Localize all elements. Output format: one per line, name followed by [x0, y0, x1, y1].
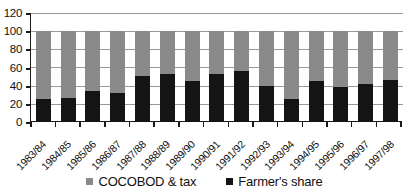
y-axis-label-0: 0: [16, 116, 22, 128]
bar-segment-farmers-share[interactable]: [209, 74, 224, 122]
bar-column[interactable]: [135, 13, 150, 122]
bar-segment-farmers-share[interactable]: [110, 93, 125, 122]
bar-column[interactable]: [185, 13, 200, 122]
bar-column[interactable]: [61, 13, 76, 122]
bar-column[interactable]: [110, 13, 125, 122]
legend-label-farmer: Farmer's share: [238, 174, 322, 189]
y-axis-label-100: 100: [4, 25, 22, 37]
bar-column[interactable]: [259, 13, 274, 122]
bar-segment-farmers-share[interactable]: [160, 74, 175, 122]
bar-column[interactable]: [234, 13, 249, 122]
y-axis-label-60: 60: [10, 62, 22, 74]
bar-column[interactable]: [85, 13, 100, 122]
bar-segment-cocobod-tax[interactable]: [383, 31, 398, 80]
bar-segment-cocobod-tax[interactable]: [209, 31, 224, 74]
bar-column[interactable]: [36, 13, 51, 122]
bar-segment-cocobod-tax[interactable]: [284, 31, 299, 99]
bar-segment-cocobod-tax[interactable]: [160, 31, 175, 74]
bar-column[interactable]: [160, 13, 175, 122]
bar-segment-cocobod-tax[interactable]: [135, 31, 150, 76]
bar-segment-farmers-share[interactable]: [85, 91, 100, 122]
bar-segment-cocobod-tax[interactable]: [259, 31, 274, 86]
stacked-bar-chart: 120 100 80 60 40 20 0 1983/841984/851985…: [0, 0, 409, 193]
bar-column[interactable]: [284, 13, 299, 122]
bar-column[interactable]: [333, 13, 348, 122]
bar-column[interactable]: [358, 13, 373, 122]
bar-segment-cocobod-tax[interactable]: [234, 31, 249, 71]
legend-swatch-icon-farmer: [226, 178, 233, 185]
bar-series-container: [31, 13, 403, 122]
bar-column[interactable]: [383, 13, 398, 122]
bar-segment-cocobod-tax[interactable]: [185, 31, 200, 81]
legend-item-cocobod-tax[interactable]: COCOBOD & tax: [86, 174, 196, 189]
y-axis-label-80: 80: [10, 43, 22, 55]
plot-area: [30, 13, 402, 122]
bar-segment-farmers-share[interactable]: [383, 80, 398, 122]
bar-segment-farmers-share[interactable]: [234, 71, 249, 122]
bar-segment-cocobod-tax[interactable]: [61, 31, 76, 98]
bar-segment-farmers-share[interactable]: [309, 81, 324, 122]
chart-legend: COCOBOD & tax Farmer's share: [0, 174, 409, 189]
bar-segment-cocobod-tax[interactable]: [333, 31, 348, 86]
y-axis-label-20: 20: [10, 98, 22, 110]
y-axis-label-40: 40: [10, 80, 22, 92]
bar-segment-cocobod-tax[interactable]: [358, 31, 373, 84]
x-axis-labels: 1983/841984/851985/861986/871987/881988/…: [30, 127, 402, 173]
bar-segment-cocobod-tax[interactable]: [309, 31, 324, 81]
bar-segment-cocobod-tax[interactable]: [110, 31, 125, 93]
bar-segment-farmers-share[interactable]: [36, 99, 51, 122]
y-axis-label-120: 120: [4, 7, 22, 19]
bar-segment-farmers-share[interactable]: [333, 87, 348, 122]
bar-segment-cocobod-tax[interactable]: [36, 31, 51, 99]
bar-segment-farmers-share[interactable]: [284, 99, 299, 122]
bar-segment-farmers-share[interactable]: [358, 84, 373, 122]
bar-segment-farmers-share[interactable]: [135, 76, 150, 122]
bar-segment-cocobod-tax[interactable]: [85, 31, 100, 91]
bar-column[interactable]: [209, 13, 224, 122]
legend-item-farmers-share[interactable]: Farmer's share: [226, 174, 322, 189]
bar-segment-farmers-share[interactable]: [259, 86, 274, 122]
bar-segment-farmers-share[interactable]: [61, 98, 76, 122]
legend-swatch-icon-cocobod: [86, 178, 93, 185]
bar-segment-farmers-share[interactable]: [185, 81, 200, 122]
bar-column[interactable]: [309, 13, 324, 122]
legend-label-cocobod: COCOBOD & tax: [98, 174, 196, 189]
